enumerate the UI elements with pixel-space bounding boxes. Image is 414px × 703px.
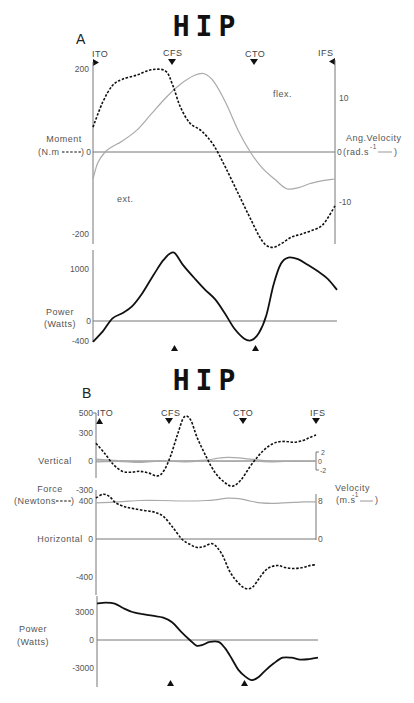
event-marker-cfs-a <box>168 59 176 65</box>
tick-power-a-1000: 1000 <box>70 264 89 274</box>
tick-horiz-0: 0 <box>88 534 93 544</box>
event-label-cto-b: CTO <box>233 408 253 418</box>
ang-velocity-line <box>93 73 335 189</box>
tick-power-a-minus-400: -400 <box>72 336 89 346</box>
title-a: HIP <box>173 10 242 43</box>
moment-label: Moment <box>46 134 82 144</box>
tick-vvel-minus-2: -2 <box>320 467 326 474</box>
panel-label-b: B <box>82 385 91 401</box>
event-label-cto-a: CTO <box>245 49 265 59</box>
angvel-unit-label: (rad.s <box>343 147 369 157</box>
moment-unit-close: ) <box>81 147 85 157</box>
tick-angvel-minus-10: -10 <box>339 197 352 207</box>
tick-vert-minus-300: -300 <box>76 485 93 495</box>
vertical-force-line <box>96 416 316 486</box>
event-marker-cto-a <box>250 59 258 65</box>
event-label-ifs-b: IFS <box>310 408 326 418</box>
tick-vert-0: 0 <box>88 456 93 466</box>
event-label-cfs-a: CFS <box>163 48 183 58</box>
angvel-label: Ang.Velocity <box>346 133 402 143</box>
velocity-unit-superscript: -1 <box>352 491 359 498</box>
horizontal-force-line <box>96 494 316 588</box>
power-unit-label-b: (Watts) <box>17 637 49 647</box>
force-unit-close: ) <box>71 496 75 506</box>
vertical-row-label: Vertical <box>38 456 72 466</box>
power-line-b <box>97 603 318 680</box>
flex-annotation: flex. <box>273 89 292 99</box>
title-b: HIP <box>173 364 242 397</box>
event-marker-ito-a <box>93 59 99 66</box>
power-label-b: Power <box>19 624 47 634</box>
tick-power-b-3000: 3000 <box>75 607 94 617</box>
tick-power-b-0: 0 <box>89 635 94 645</box>
ext-annotation: ext. <box>117 194 134 204</box>
tick-power-a-0: 0 <box>86 316 91 326</box>
event-marker-cto-b <box>239 418 247 424</box>
power-marker-cfs-b <box>167 680 174 686</box>
power-unit-label-a: (Watts) <box>44 319 76 329</box>
velocity-unit-close: ) <box>375 495 379 505</box>
tick-angvel-0: 0 <box>337 147 342 157</box>
event-label-ifs-a: IFS <box>318 48 334 58</box>
tick-vert-500: 500 <box>79 408 93 418</box>
event-marker-ito-b <box>96 418 103 424</box>
force-unit-label: (Newtons <box>14 496 56 506</box>
tick-moment-minus-200: -200 <box>72 229 89 239</box>
tick-power-b-minus-3000: -3000 <box>72 663 94 673</box>
power-label-a: Power <box>46 307 74 317</box>
event-marker-cfs-b <box>165 418 173 424</box>
moment-unit-label: (N.m <box>38 147 60 157</box>
event-label-cfs-b: CFS <box>161 408 181 418</box>
tick-horiz-400: 400 <box>79 496 93 506</box>
panel-label-a: A <box>76 31 86 47</box>
force-label: Force <box>37 484 63 494</box>
tick-moment-200: 200 <box>75 64 89 74</box>
tick-angvel-10: 10 <box>339 93 349 103</box>
power-marker-cto-a <box>252 345 259 351</box>
hip-biomechanics-figure: HIP A ITO CFS CTO IFS 200 0 -200 10 0 -1… <box>0 0 414 703</box>
angvel-unit-superscript: -1 <box>370 143 377 150</box>
horizontal-velocity-line <box>96 498 316 503</box>
angvel-unit-close: ) <box>394 147 398 157</box>
tick-hvel-0: 0 <box>318 534 323 544</box>
power-marker-cfs-a <box>171 345 178 351</box>
event-marker-ifs-b <box>312 418 320 424</box>
tick-moment-0: 0 <box>86 147 91 157</box>
power-line-a <box>93 252 337 342</box>
tick-vvel-2: 2 <box>321 449 325 456</box>
moment-line <box>93 69 335 247</box>
event-label-ito-b: ITO <box>97 408 113 418</box>
tick-vert-300: 300 <box>79 428 93 438</box>
tick-hvel-8: 8 <box>318 496 323 506</box>
tick-vvel-0: 0 <box>318 458 322 465</box>
power-marker-cto-b <box>241 680 248 686</box>
horizontal-row-label: Horizontal <box>37 534 83 544</box>
event-marker-ifs-a <box>329 58 335 65</box>
event-label-ito-a: ITO <box>92 49 108 59</box>
tick-horiz-minus-400: -400 <box>76 572 93 582</box>
